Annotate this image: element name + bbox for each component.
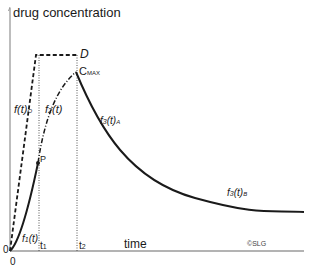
cmax-main: C bbox=[79, 65, 87, 77]
f-o-label: f(t)O bbox=[14, 104, 32, 115]
f2-label: f2(t) bbox=[45, 104, 62, 115]
f3-decay-curve bbox=[76, 72, 304, 212]
f-o-main: f(t) bbox=[14, 103, 27, 115]
cmax-label: CMAX bbox=[79, 66, 100, 77]
f3b-label: f3(t)B bbox=[227, 188, 247, 198]
f-o-sub: O bbox=[27, 108, 32, 114]
origin-x-label: 0 bbox=[10, 257, 16, 267]
t2-sub: 2 bbox=[82, 243, 86, 250]
t1-sub: 1 bbox=[43, 243, 47, 250]
t2-label: t2 bbox=[79, 241, 86, 251]
cmax-sub: MAX bbox=[87, 70, 100, 76]
f1-rest: (t) bbox=[29, 233, 38, 244]
f1-label: f1(t) bbox=[22, 234, 38, 244]
f2-rest: (t) bbox=[52, 103, 62, 115]
y-axis-label: drug concentration bbox=[13, 6, 121, 19]
point-p-label: P bbox=[40, 155, 46, 164]
f3b-sub2: B bbox=[243, 191, 247, 197]
f3b-rest: (t) bbox=[234, 187, 243, 198]
f-o-dashed-curve bbox=[10, 55, 77, 251]
copyright-label: ©SLG bbox=[247, 240, 266, 247]
t1-label: t1 bbox=[40, 241, 47, 251]
origin-y-label: 0 bbox=[3, 245, 9, 255]
x-axis-label: time bbox=[124, 238, 147, 250]
f3a-sub2: A bbox=[116, 119, 120, 125]
f3a-rest: (t) bbox=[107, 115, 116, 126]
point-d-label: D bbox=[80, 48, 89, 60]
f2-dashdot-curve bbox=[38, 72, 76, 163]
pharmacokinetic-diagram bbox=[0, 0, 313, 273]
f3a-label: f3(t)A bbox=[100, 116, 120, 126]
